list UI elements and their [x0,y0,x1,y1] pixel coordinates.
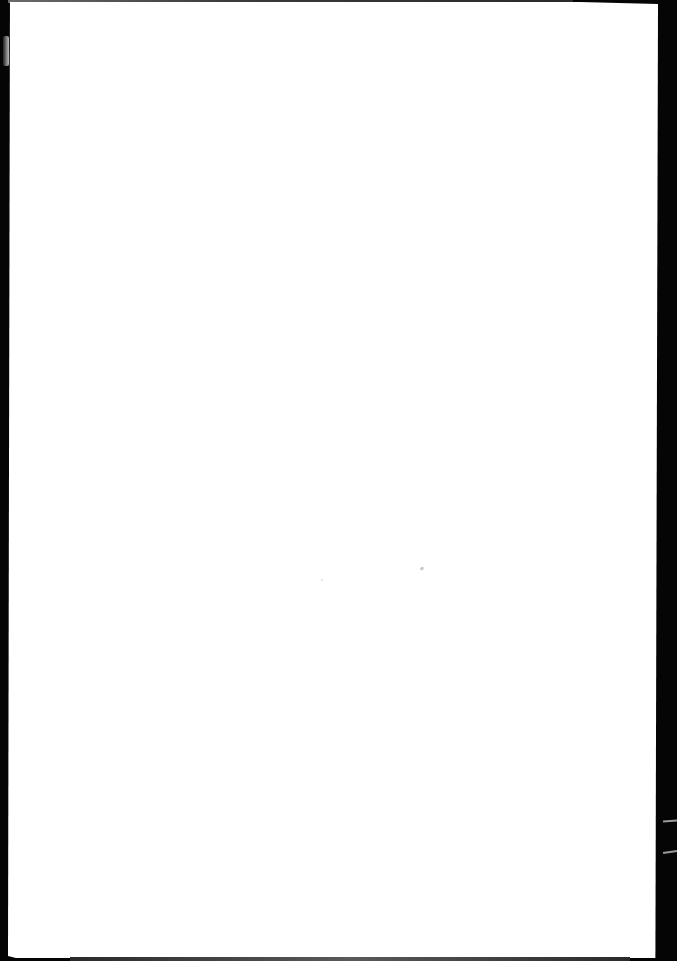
paper-bottom-edge-shadow [70,957,630,961]
dust-speck [420,566,425,571]
blank-page [8,2,658,958]
scanner-edge-mark [663,850,677,854]
scanner-edge-mark [663,820,677,823]
paper-left-edge-curl [3,36,9,66]
dust-speck [321,579,323,581]
scanner-background [0,0,677,961]
